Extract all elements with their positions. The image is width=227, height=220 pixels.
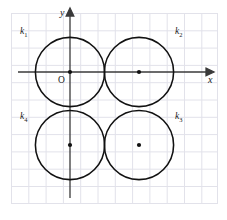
y-axis-arrowhead [66, 8, 74, 16]
circle-center-dots [68, 70, 141, 147]
x-axis-label: x [208, 74, 212, 85]
circle-label-k1: k1 [20, 26, 27, 38]
center-dot-k2 [137, 70, 141, 74]
center-dot-k3 [137, 143, 141, 147]
circle-label-k4-subscript: 4 [24, 116, 27, 123]
circle-label-k3-subscript: 3 [179, 116, 182, 123]
circle-label-k3: k3 [175, 111, 182, 123]
origin-label: O [58, 75, 65, 85]
circle-label-k1-subscript: 1 [24, 31, 27, 38]
circle-label-k2: k2 [175, 26, 182, 38]
grid-lines [11, 13, 218, 204]
center-dot-k1 [68, 70, 72, 74]
y-axis-label: y [60, 7, 64, 18]
center-dot-k4 [68, 143, 72, 147]
circle-label-k4: k4 [20, 111, 27, 123]
circles [35, 37, 173, 179]
circle-label-k2-subscript: 2 [179, 31, 182, 38]
geometry-figure: k1 k2 k3 k4 y x O [0, 0, 227, 220]
figure-canvas [0, 0, 227, 220]
